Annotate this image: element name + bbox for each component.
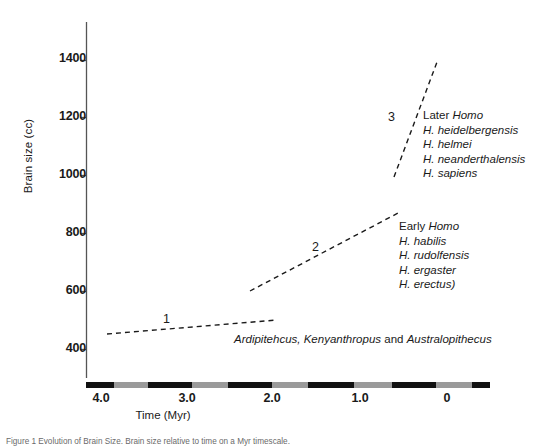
taxa-part-2: and: [381, 333, 407, 345]
early-homo-heading: Early Homo: [399, 219, 469, 234]
segment-number-2: 2: [312, 240, 319, 254]
early-homo-species-2: H. rudolfensis: [399, 248, 469, 263]
y-tick-label-400: 400: [34, 341, 86, 355]
y-axis-title: Brain size (cc): [22, 96, 34, 216]
y-tick-label-1200: 1200: [34, 109, 86, 123]
x-axis-timescale-bar: [86, 382, 490, 388]
y-tick-label-800: 800: [34, 225, 86, 239]
later-homo-species-4: H. sapiens: [423, 166, 525, 181]
segment-number-3: 3: [388, 110, 395, 124]
later-homo-species-3: H. neanderthalensis: [423, 152, 525, 167]
x-tick-label-0: 0: [427, 391, 467, 405]
y-axis-ticks: [80, 61, 87, 350]
later-homo-species-1: H. heidelbergensis: [423, 123, 525, 138]
annotation-early-homo: Early Homo H. habilis H. rudolfensis H. …: [399, 219, 469, 292]
y-tick-label-1000: 1000: [34, 167, 86, 181]
later-homo-heading: Later Homo: [423, 108, 525, 123]
y-tick-label-1400: 1400: [34, 51, 86, 65]
taxa-part-1: Ardipitehcus, Kenyanthropus: [234, 333, 381, 345]
figure-caption: Figure 1 Evolution of Brain Size. Brain …: [6, 437, 540, 446]
annotation-australopith-taxa: Ardipitehcus, Kenyanthropus and Australo…: [234, 333, 492, 345]
segment-number-1: 1: [163, 312, 170, 326]
trend-line-segment-1: [107, 320, 277, 334]
early-homo-species-1: H. habilis: [399, 234, 469, 249]
x-tick-label-2.0: 2.0: [252, 391, 292, 405]
x-axis-title: Time (Myr): [103, 409, 223, 421]
x-tick-label-3.0: 3.0: [167, 391, 207, 405]
annotation-later-homo: Later Homo H. heidelbergensis H. helmei …: [423, 108, 525, 181]
later-homo-species-2: H. helmei: [423, 137, 525, 152]
y-tick-label-600: 600: [34, 283, 86, 297]
x-tick-label-1.0: 1.0: [340, 391, 380, 405]
early-homo-species-4: H. erectus): [399, 277, 469, 292]
x-tick-label-4.0: 4.0: [81, 391, 121, 405]
trend-line-segment-2: [250, 212, 400, 291]
taxa-part-3: Australopithecus: [407, 333, 492, 345]
early-homo-species-3: H. ergaster: [399, 263, 469, 278]
